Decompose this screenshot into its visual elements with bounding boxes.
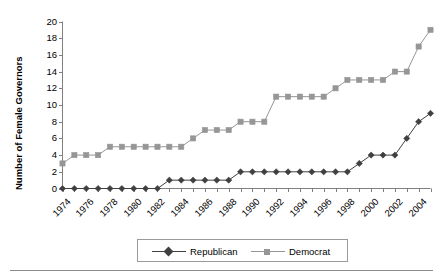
data-point-diamond-icon (119, 185, 125, 191)
chart-legend: Republican Democrat (137, 239, 348, 262)
data-point-square-icon (274, 94, 279, 99)
data-point-square-icon (321, 94, 326, 99)
data-point-square-icon (369, 77, 374, 82)
data-point-square-icon (167, 144, 172, 149)
data-point-square-icon (155, 144, 160, 149)
data-point-diamond-icon (427, 110, 433, 116)
legend-marker-square-icon (264, 249, 270, 255)
data-point-diamond-icon (178, 177, 184, 183)
data-point-diamond-icon (321, 169, 327, 175)
data-point-square-icon (333, 86, 338, 91)
data-point-diamond-icon (166, 177, 172, 183)
series-democrat (60, 27, 433, 166)
data-point-diamond-icon (202, 177, 208, 183)
data-point-square-icon (96, 153, 101, 158)
data-point-square-icon (214, 127, 219, 132)
data-point-diamond-icon (368, 152, 374, 158)
legend-swatch-democrat (251, 246, 285, 258)
data-point-diamond-icon (261, 169, 267, 175)
data-point-diamond-icon (214, 177, 220, 183)
data-point-square-icon (84, 153, 89, 158)
legend-swatch-republican (152, 246, 186, 258)
data-point-square-icon (202, 127, 207, 132)
data-point-square-icon (72, 153, 77, 158)
data-point-square-icon (226, 127, 231, 132)
data-point-square-icon (60, 161, 65, 166)
data-point-square-icon (416, 44, 421, 49)
data-point-square-icon (107, 144, 112, 149)
legend-label-republican: Republican (190, 246, 238, 257)
legend-item-republican: Republican (152, 240, 238, 263)
legend-item-democrat: Democrat (251, 240, 330, 263)
data-point-square-icon (392, 69, 397, 74)
data-point-diamond-icon (131, 185, 137, 191)
data-point-diamond-icon (309, 169, 315, 175)
data-point-diamond-icon (356, 160, 362, 166)
data-point-square-icon (238, 119, 243, 124)
data-point-diamond-icon (416, 119, 422, 125)
data-series-layer (59, 27, 433, 191)
data-point-square-icon (428, 27, 433, 32)
data-point-square-icon (345, 77, 350, 82)
data-point-diamond-icon (273, 169, 279, 175)
footer-divider (10, 270, 433, 271)
series-line (63, 30, 431, 164)
data-point-diamond-icon (142, 185, 148, 191)
data-point-diamond-icon (237, 169, 243, 175)
data-point-diamond-icon (392, 152, 398, 158)
data-point-diamond-icon (190, 177, 196, 183)
data-point-square-icon (143, 144, 148, 149)
data-point-square-icon (285, 94, 290, 99)
data-point-diamond-icon (344, 169, 350, 175)
data-point-diamond-icon (71, 185, 77, 191)
data-point-square-icon (309, 94, 314, 99)
data-point-square-icon (179, 144, 184, 149)
data-point-diamond-icon (380, 152, 386, 158)
plot-area (0, 0, 443, 280)
data-point-diamond-icon (249, 169, 255, 175)
data-point-square-icon (131, 144, 136, 149)
chart-figure: Number of Female Governors 0246810121416… (0, 0, 443, 280)
data-point-diamond-icon (107, 185, 113, 191)
data-point-diamond-icon (95, 185, 101, 191)
data-point-square-icon (250, 119, 255, 124)
legend-label-democrat: Democrat (289, 246, 330, 257)
data-point-diamond-icon (154, 185, 160, 191)
data-point-diamond-icon (285, 169, 291, 175)
data-point-diamond-icon (226, 177, 232, 183)
legend-marker-diamond-icon (164, 246, 174, 256)
data-point-square-icon (190, 136, 195, 141)
axis-lines (63, 22, 431, 189)
series-line (63, 113, 431, 188)
x-axis-ticks (64, 189, 432, 193)
data-point-square-icon (119, 144, 124, 149)
series-republican (59, 110, 433, 191)
data-point-diamond-icon (297, 169, 303, 175)
data-point-square-icon (262, 119, 267, 124)
data-point-diamond-icon (404, 135, 410, 141)
data-point-diamond-icon (59, 185, 65, 191)
data-point-square-icon (404, 69, 409, 74)
data-point-square-icon (380, 77, 385, 82)
data-point-diamond-icon (83, 185, 89, 191)
data-point-square-icon (297, 94, 302, 99)
data-point-diamond-icon (332, 169, 338, 175)
data-point-square-icon (357, 77, 362, 82)
